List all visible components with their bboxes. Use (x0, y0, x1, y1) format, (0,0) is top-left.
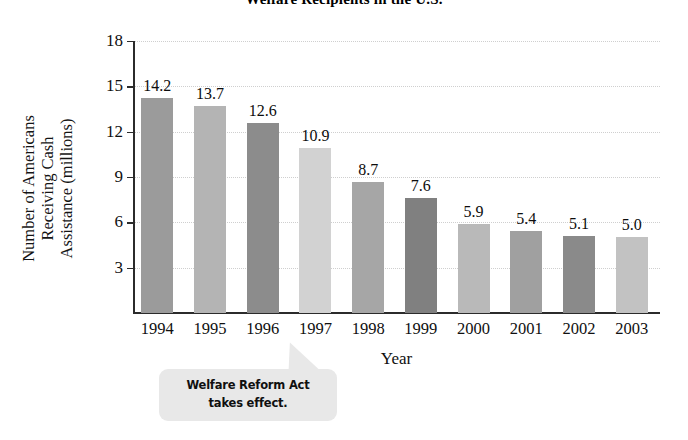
y-axis-tick-label: 6 (115, 212, 124, 232)
bar: 5.4 (510, 231, 542, 313)
chart-figure: Welfare Recipients in the U.S. Number of… (0, 0, 688, 440)
y-axis-tick (127, 132, 134, 133)
y-axis-tick (127, 86, 134, 87)
bar-value-label: 8.7 (358, 161, 378, 179)
x-axis-tick-label: 2001 (510, 319, 543, 339)
chart-title: Welfare Recipients in the U.S. (0, 0, 688, 8)
x-axis-tick-label: 1995 (194, 319, 227, 339)
y-axis-tick-label: 3 (115, 258, 124, 278)
x-axis-tick-label: 2002 (562, 319, 595, 339)
y-axis-tick-label: 12 (106, 122, 123, 142)
x-axis-tick-label: 1994 (141, 319, 174, 339)
y-axis-tick-label: 15 (106, 76, 123, 96)
y-axis-title-line-1: Number of Americans (19, 74, 38, 304)
bar-value-label: 14.2 (143, 77, 171, 95)
x-axis-tick-label: 1998 (352, 319, 385, 339)
callout-text: Welfare Reform Act takes effect. (159, 376, 337, 412)
bar: 5.9 (458, 224, 490, 313)
bar: 12.6 (247, 123, 279, 313)
bar-value-label: 10.9 (301, 127, 329, 145)
bar-value-label: 5.1 (569, 215, 589, 233)
bar-value-label: 5.0 (622, 216, 642, 234)
bar: 13.7 (194, 106, 226, 313)
plot-area: 369121518 14.213.712.610.98.77.65.95.45.… (133, 41, 660, 313)
callout-line-2: takes effect. (159, 394, 337, 412)
bar: 5.1 (563, 236, 595, 313)
y-axis-title-line-2: Receiving Cash (38, 74, 57, 304)
y-axis-tick (127, 177, 134, 178)
welfare-reform-act-callout: Welfare Reform Act takes effect. (159, 369, 337, 421)
x-axis-tick-label: 1997 (299, 319, 332, 339)
y-axis-tick-label: 9 (115, 167, 124, 187)
x-axis-tick-label: 1999 (404, 319, 437, 339)
y-axis-tick-label: 18 (106, 31, 123, 51)
bar: 10.9 (299, 148, 331, 313)
bar: 8.7 (352, 182, 384, 313)
bar: 14.2 (141, 98, 173, 313)
y-axis-title: Number of Americans Receiving Cash Assis… (19, 74, 76, 304)
bar-value-label: 12.6 (249, 102, 277, 120)
x-axis-tick-label: 1996 (246, 319, 279, 339)
callout-line-1: Welfare Reform Act (159, 376, 337, 394)
x-axis-title: Year (133, 349, 660, 369)
y-axis-tick (127, 222, 134, 223)
bar-value-label: 13.7 (196, 85, 224, 103)
bar: 5.0 (616, 237, 648, 313)
y-axis-tick (127, 268, 134, 269)
x-axis-tick-label: 2000 (457, 319, 490, 339)
gridline (133, 41, 660, 42)
bar-value-label: 5.9 (464, 203, 484, 221)
bar: 7.6 (405, 198, 437, 313)
bar-value-label: 5.4 (516, 210, 536, 228)
x-axis-tick-label: 2003 (615, 319, 648, 339)
y-axis-tick (127, 41, 134, 42)
y-axis-title-line-3: Assistance (millions) (57, 74, 76, 304)
bar-value-label: 7.6 (411, 177, 431, 195)
